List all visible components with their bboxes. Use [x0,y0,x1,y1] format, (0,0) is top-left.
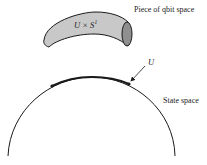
u-label: U [148,57,154,67]
diagram-canvas: Piece of qbit space U × S1 U State space [0,0,207,165]
diagram-svg [0,0,207,165]
tube-label-superscript: 1 [94,19,97,25]
tube-label: U × S1 [74,19,97,30]
qbit-space-label: Piece of qbit space [134,5,194,14]
u-segment-endpoint-right [127,82,130,85]
state-space-arc [8,77,175,156]
tube-label-base: U × S [74,20,94,30]
state-space-label: State space [163,96,199,105]
u-segment-endpoint-left [50,84,53,87]
u-pointer-arrow [131,66,145,81]
